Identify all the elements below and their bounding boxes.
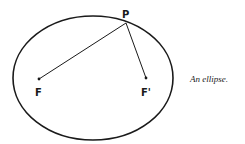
focus-f-prime-label: F'	[141, 87, 151, 98]
focus-f-prime-dot	[145, 77, 148, 80]
ellipse-curve	[13, 16, 173, 140]
focus-f-dot	[38, 78, 41, 81]
point-p-label: P	[122, 9, 129, 20]
focus-f-label: F	[35, 87, 42, 98]
figure-caption: An ellipse.	[190, 74, 228, 84]
ellipse-diagram: P F F'	[0, 0, 245, 144]
line-p-to-f-prime	[126, 23, 146, 78]
line-p-to-f	[39, 23, 126, 79]
